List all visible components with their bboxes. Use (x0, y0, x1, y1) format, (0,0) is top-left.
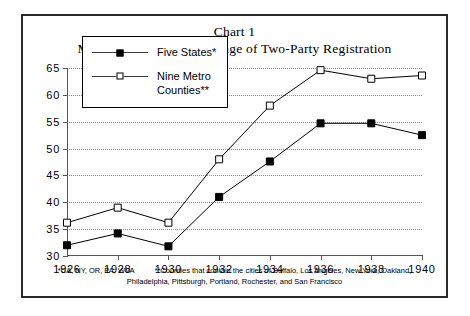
y-axis-label-35: 35 (46, 223, 60, 235)
y-axis-label-30: 30 (46, 250, 60, 262)
footnotes-block: *CA, NY, OR, PA, WVA **Counties that con… (23, 265, 446, 288)
data-point-open-square-1928 (114, 204, 121, 211)
y-axis-label-65: 65 (46, 62, 60, 74)
series-line-filled-square (67, 123, 422, 246)
data-point-filled-square-1930 (165, 243, 172, 250)
data-point-filled-square-1926 (64, 242, 71, 249)
legend-label-nine-metro-counties: Nine Metro Counties** (157, 69, 211, 98)
y-axis-label-55: 55 (46, 116, 60, 128)
legend-item-five-states: Five States* (92, 45, 216, 60)
data-point-open-square-1938 (368, 75, 375, 82)
data-point-open-square-1940 (419, 72, 426, 79)
chart-legend: Five States* Nine Metro Counties** (82, 36, 228, 108)
data-point-filled-square-1932 (216, 193, 223, 200)
data-point-open-square-1936 (317, 67, 324, 74)
x-tick-mark-1940 (422, 255, 423, 260)
chart-figure-container: Chart 1 Mean Democratic Percentage of Tw… (21, 14, 448, 298)
data-point-filled-square-1938 (368, 120, 375, 127)
y-axis-label-40: 40 (46, 196, 60, 208)
data-point-filled-square-1936 (317, 120, 324, 127)
footnote-metro-counties-line-2: Philadelphia, Pittsburgh, Portland, Roch… (23, 276, 446, 287)
filled-square-marker-icon (92, 46, 148, 59)
footnote-metro-counties-line-1: **Counties that contain the cities of Bu… (154, 265, 411, 276)
data-point-filled-square-1934 (266, 158, 273, 165)
y-axis-label-50: 50 (46, 143, 60, 155)
data-point-open-square-1930 (165, 219, 172, 226)
footnote-row-top: *CA, NY, OR, PA, WVA **Counties that con… (23, 265, 446, 276)
legend-label-five-states: Five States* (157, 45, 216, 60)
data-point-open-square-1934 (266, 102, 273, 109)
y-axis-label-60: 60 (46, 89, 60, 101)
data-point-filled-square-1940 (419, 132, 426, 139)
y-tick-mark-30 (63, 256, 68, 257)
y-axis-label-45: 45 (46, 169, 60, 181)
footnote-five-states: *CA, NY, OR, PA, WVA (58, 265, 135, 276)
data-point-filled-square-1928 (114, 230, 121, 237)
legend-item-nine-metro-counties: Nine Metro Counties** (92, 69, 216, 98)
data-point-open-square-1926 (64, 219, 71, 226)
open-square-marker-icon (92, 70, 148, 83)
data-point-open-square-1932 (216, 156, 223, 163)
